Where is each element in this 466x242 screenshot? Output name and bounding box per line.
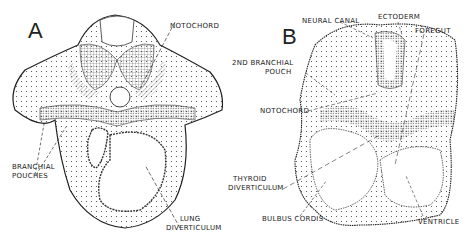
label-ectoderm: ECTODERM xyxy=(378,13,420,21)
label-ventricle: VENTRICLE xyxy=(418,218,460,226)
panel-a-letter: A xyxy=(28,18,43,44)
panel-a-drawing xyxy=(13,15,223,228)
label-neural-canal: NEURAL CANAL xyxy=(302,17,359,25)
label-2nd-branchial-1: 2ND BRANCHIAL xyxy=(232,59,294,67)
label-bulbus-cordis: BULBUS CORDIS xyxy=(262,215,323,223)
label-lung-2: DIVERTICULUM xyxy=(166,224,222,232)
label-2nd-branchial-2: POUCH xyxy=(265,68,292,76)
label-thyroid-1: THYROID xyxy=(233,175,267,183)
embryo-drawings xyxy=(0,0,466,242)
label-branchial-pouches-2: POUCHES xyxy=(12,172,48,180)
label-thyroid-2: DIVERTICULUM xyxy=(228,184,284,192)
label-branchial-pouches-1: BRANCHIAL xyxy=(12,163,55,171)
label-foregut: FOREGUT xyxy=(415,27,451,35)
label-notochord-a: NOTOCHORD xyxy=(170,22,219,30)
panel-b-drawing xyxy=(283,22,458,225)
panel-b-letter: B xyxy=(282,24,297,50)
label-notochord-b: NOTOCHORD xyxy=(260,107,309,115)
label-lung-1: LUNG xyxy=(180,215,201,223)
